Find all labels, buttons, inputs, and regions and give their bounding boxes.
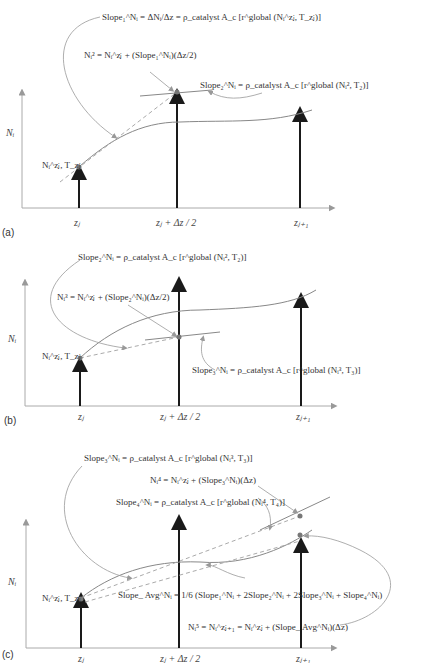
- tangent-slope3: [81, 516, 300, 598]
- callout-slope1: [63, 17, 115, 137]
- panel-c: Nᵢ Nᵢ^zⱼ, T_zⱼ Slope₃^Nᵢ = ρ_catalyst A_…: [2, 453, 391, 663]
- equation-n2: Nᵢ² = Nᵢ^zⱼ + (Slope₁^Nᵢ)(Δz/2): [84, 50, 197, 60]
- equation-n5: Nᵢ⁵ = Nᵢ^zⱼ₊₁ = Nᵢ^zⱼ + (Slope_ Avg^Nᵢ)(…: [188, 622, 348, 632]
- equation-slope4: Slope₄^Nᵢ = ρ_catalyst A_c [r^global (Nᵢ…: [116, 497, 285, 507]
- solution-curve: [80, 110, 312, 166]
- n4-point: [298, 514, 303, 519]
- y-axis-label: Nᵢ: [7, 333, 17, 344]
- panel-label-a: (a): [2, 227, 14, 238]
- callout-slope2: [210, 92, 262, 98]
- x-tick-zmid: zⱼ + Δz / 2: [155, 217, 196, 228]
- mid-point: [175, 90, 180, 95]
- slope3-line: [145, 332, 220, 340]
- panel-b: Nᵢ Nᵢ^zⱼ, T_zⱼ Slope₂^Nᵢ = ρ_catalyst A_…: [4, 252, 360, 426]
- equation-n3: Nᵢ³ = Nᵢ^zⱼ + (Slope₂^Nᵢ)(Δz/2): [57, 292, 170, 302]
- callout-slope2: [51, 260, 125, 348]
- equation-n4: Nᵢ⁴ = Nᵢ^zⱼ + (Slope₃^Nᵢ)(Δz): [150, 475, 256, 485]
- x-tick-zj1: zⱼ₊₁: [293, 217, 308, 228]
- x-tick-zj: zⱼ: [73, 217, 81, 228]
- panel-a: Nᵢ Nᵢ^zⱼ, T_zⱼ Slope₁^Nᵢ = ΔNᵢ/Δz = ρ_ca…: [2, 12, 368, 238]
- x-tick-zj1: zⱼ₊₁: [295, 411, 310, 422]
- equation-slope3: Slope₃^Nᵢ = ρ_catalyst A_c [r^global (Nᵢ…: [192, 365, 360, 375]
- callout-n5: [306, 536, 391, 625]
- equation-slope-avg: Slope_ Avg^Nᵢ = 1/6 (Slope₁^Nᵢ + 2Slope₂…: [118, 590, 382, 600]
- callout-n2: [150, 72, 172, 90]
- solution-curve: [81, 530, 312, 598]
- panel-label-b: (b): [4, 415, 16, 426]
- x-tick-zj: zⱼ: [77, 653, 85, 663]
- callout-slope-avg: [208, 565, 245, 578]
- start-point-label: Nᵢ^zⱼ, T_zⱼ: [42, 351, 81, 361]
- x-tick-zj: zⱼ: [77, 411, 85, 422]
- n5-point: [298, 533, 303, 538]
- panel-label-c: (c): [2, 649, 14, 660]
- callout-n3: [128, 305, 175, 335]
- y-axis-label: Nᵢ: [5, 127, 15, 138]
- equation-slope2: Slope₂^Nᵢ = ρ_catalyst A_c [r^global (Nᵢ…: [200, 80, 368, 90]
- x-tick-zj1: zⱼ₊₁: [295, 653, 310, 663]
- start-point-label: Nᵢ^zⱼ, T_zⱼ: [42, 593, 81, 603]
- runge-kutta-diagram: Nᵢ Nᵢ^zⱼ, T_zⱼ Slope₁^Nᵢ = ΔNᵢ/Δz = ρ_ca…: [0, 0, 422, 663]
- start-point-label: Nᵢ^zⱼ, T_zⱼ: [42, 160, 81, 170]
- callout-slope3: [64, 466, 130, 578]
- x-tick-zmid: zⱼ + Δz / 2: [159, 411, 200, 422]
- mid-point: [177, 335, 182, 340]
- y-axis-label: Nᵢ: [7, 576, 17, 587]
- tangent-slope2: [80, 337, 179, 358]
- x-tick-zmid: zⱼ + Δz / 2: [159, 653, 200, 663]
- equation-slope2: Slope₂^Nᵢ = ρ_catalyst A_c [r^global (Nᵢ…: [78, 252, 246, 262]
- equation-slope1: Slope₁^Nᵢ = ΔNᵢ/Δz = ρ_catalyst A_c [r^g…: [102, 12, 321, 22]
- equation-slope3: Slope₃^Nᵢ = ρ_catalyst A_c [r^global (Nᵢ…: [84, 453, 252, 463]
